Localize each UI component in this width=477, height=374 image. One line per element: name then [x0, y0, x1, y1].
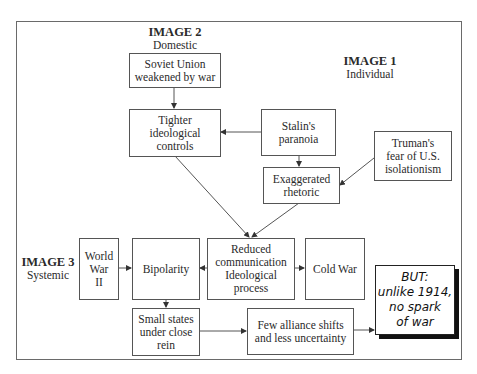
- node-bipolarity: Bipolarity: [132, 238, 200, 300]
- node-cold-war: Cold War: [305, 238, 365, 300]
- image2-subtitle: Domestic: [128, 39, 222, 52]
- image2-label: IMAGE 2 Domestic: [128, 26, 222, 52]
- node-stalin-paranoia: Stalin's paranoia: [261, 109, 336, 156]
- node-exaggerated-rhetoric: Exaggerated rhetoric: [263, 167, 340, 204]
- node-small-states: Small states under close rein: [132, 308, 200, 356]
- node-tighter-controls: Tighter ideological controls: [129, 109, 221, 157]
- node-few-alliance-shifts: Few alliance shifts and less uncertainty: [247, 308, 354, 355]
- image2-title: IMAGE 2: [128, 26, 222, 39]
- node-reduced-communication: Reduced communication Ideological proces…: [207, 238, 295, 300]
- node-soviet-union: Soviet Union weakened by war: [129, 53, 221, 88]
- image3-label: IMAGE 3 Systemic: [20, 256, 76, 282]
- image1-title: IMAGE 1: [330, 55, 410, 68]
- image1-subtitle: Individual: [330, 68, 410, 81]
- but-callout: BUT: unlike 1914, no spark of war: [375, 265, 455, 335]
- image3-subtitle: Systemic: [20, 269, 76, 282]
- node-world-war-ii: World War II: [79, 238, 119, 300]
- node-truman-fear: Truman's fear of U.S. isolationism: [374, 131, 452, 181]
- image3-title: IMAGE 3: [20, 256, 76, 269]
- image1-label: IMAGE 1 Individual: [330, 55, 410, 81]
